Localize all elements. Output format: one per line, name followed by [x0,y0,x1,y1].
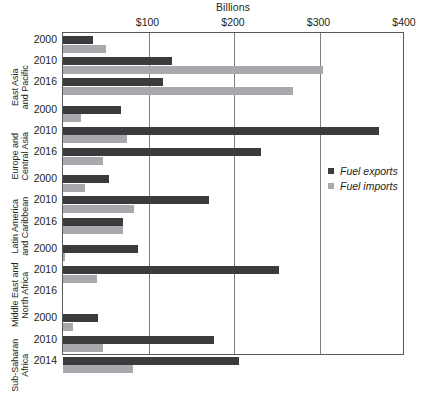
bar-fuel-exports [63,218,123,226]
legend-item-exports: Fuel exports [328,163,398,178]
gridline [234,33,235,354]
x-tick-label: $100 [136,16,159,28]
chart-legend: Fuel exportsFuel imports [328,163,398,193]
legend-item-imports: Fuel imports [328,178,398,193]
bar-fuel-imports [63,365,133,373]
bar-fuel-exports [63,245,138,253]
bar-fuel-imports [63,87,293,95]
region-label: Latin Americaand Caribbean [10,194,30,258]
bar-fuel-imports [63,226,123,234]
plot-area [62,32,404,355]
bar-fuel-exports [63,36,93,44]
bar-fuel-imports [63,253,65,261]
x-tick-label: $200 [221,16,244,28]
bar-fuel-imports [63,135,127,143]
bar-fuel-exports [63,78,163,86]
legend-label: Fuel imports [340,180,398,192]
region-label: Middle East andNorth Africa [10,264,30,328]
region-label: Europe andCentral Asia [10,125,30,189]
x-tick-label: $400 [392,16,415,28]
bar-fuel-imports [63,205,134,213]
bar-fuel-exports [63,196,209,204]
legend-swatch-exports-icon [328,168,334,174]
bar-fuel-imports [63,184,85,192]
bar-fuel-imports [63,66,323,74]
bar-fuel-imports [63,275,97,283]
bar-fuel-exports [63,336,214,344]
region-label: Sub-SaharanAfrica [10,333,30,396]
bar-fuel-exports [63,266,279,274]
year-label: 2000 [23,33,57,45]
bar-fuel-exports [63,175,109,183]
bar-fuel-exports [63,127,379,135]
legend-label: Fuel exports [340,165,398,177]
bar-fuel-imports [63,344,103,352]
region-label: East Asiaand Pacific [10,55,30,119]
bar-fuel-imports [63,45,106,53]
bar-fuel-imports [63,323,73,331]
bar-fuel-exports [63,57,172,65]
x-tick-label: $300 [307,16,330,28]
bar-fuel-exports [63,106,121,114]
bar-fuel-exports [63,357,239,365]
bar-fuel-imports [63,157,103,165]
bar-fuel-exports [63,148,261,156]
chart-title: Billions [62,1,404,13]
bar-fuel-exports [63,314,98,322]
legend-swatch-imports-icon [328,183,334,189]
bar-fuel-imports [63,114,81,122]
gridline [320,33,321,354]
